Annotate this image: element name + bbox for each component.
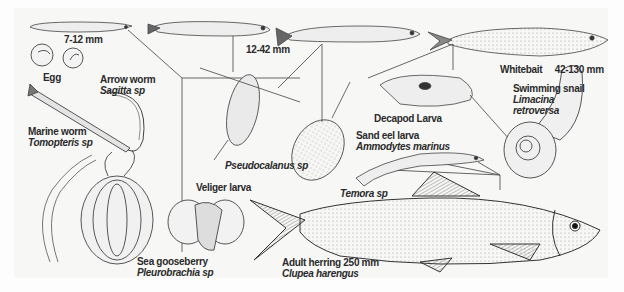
larva-12-42mm-drawing xyxy=(148,22,270,36)
label-decapod-larva: Decapod Larva xyxy=(374,113,442,124)
arrow-worm-common-name: Arrow worm xyxy=(100,74,155,85)
pseudocalanus-drawing xyxy=(200,68,300,160)
label-whitebait: Whitebait 42-130 mm xyxy=(500,64,604,75)
temora-drawing xyxy=(281,82,355,190)
sea-gooseberry-scientific-name: Pleurobrachia sp xyxy=(137,267,213,278)
label-veliger-larva: Veliger larva xyxy=(196,182,251,193)
label-pseudocalanus: Pseudocalanus sp xyxy=(225,160,308,171)
whitebait-common-name: Whitebait xyxy=(500,64,542,75)
label-larva-12-42mm: 12-42 mm xyxy=(246,44,290,55)
sea-gooseberry-common-name: Sea gooseberry xyxy=(137,256,213,267)
label-larva-7-12mm: 7-12 mm xyxy=(64,34,102,45)
label-marine-worm: Marine worm Tomopteris sp xyxy=(28,126,93,148)
larva-7-12mm-drawing xyxy=(30,22,132,32)
marine-worm-scientific-name: Tomopteris sp xyxy=(28,137,93,148)
label-egg: Egg xyxy=(43,72,61,83)
label-sand-eel-larva: Sand eel larva Ammodytes marinus xyxy=(356,130,450,152)
swimming-snail-scientific-name: Limacina retroversa xyxy=(513,94,575,116)
temora-scientific-name: Temora sp xyxy=(340,188,388,199)
larva-large-drawing xyxy=(276,26,420,46)
pseudocalanus-scientific-name: Pseudocalanus sp xyxy=(225,160,308,171)
illustration-canvas: 7-12 mm Egg Arrow worm Sagitta sp Marine… xyxy=(0,0,624,292)
sand-eel-common-name: Sand eel larva xyxy=(356,130,450,141)
label-sea-gooseberry: Sea gooseberry Pleurobrachia sp xyxy=(137,256,213,278)
label-swimming-snail: Swimming snail Limacina retroversa xyxy=(513,83,584,116)
sea-gooseberry-drawing xyxy=(81,150,153,264)
egg-drawing xyxy=(31,44,83,68)
marine-worm-common-name: Marine worm xyxy=(28,126,93,137)
swimming-snail-common-name: Swimming snail xyxy=(513,83,584,94)
veliger-larva-drawing xyxy=(168,200,244,250)
whitebait-drawing xyxy=(428,28,608,56)
label-arrow-worm: Arrow worm Sagitta sp xyxy=(100,74,155,96)
sand-eel-scientific-name: Ammodytes marinus xyxy=(356,141,450,152)
label-adult-herring: Adult herring 250 mm Clupea harengus xyxy=(282,257,379,279)
adult-herring-common-name: Adult herring 250 mm xyxy=(282,257,379,268)
adult-herring-scientific-name: Clupea harengus xyxy=(282,268,379,279)
label-temora: Temora sp xyxy=(340,188,388,199)
sand-eel-larva-drawing xyxy=(356,153,484,186)
whitebait-size: 42-130 mm xyxy=(555,64,604,75)
arrow-worm-scientific-name: Sagitta sp xyxy=(100,85,155,96)
